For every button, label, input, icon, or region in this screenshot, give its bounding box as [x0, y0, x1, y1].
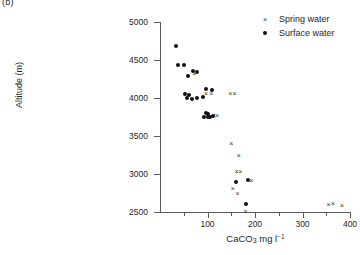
data-point-spring-water: ×	[228, 140, 235, 147]
y-tick-label-3000: 3000	[108, 169, 148, 179]
x-axis-label-superscript: −1	[277, 233, 284, 240]
data-point-spring-water: ×	[242, 208, 249, 215]
data-point-spring-water: ×	[338, 202, 345, 209]
y-tick-label-4000: 4000	[108, 93, 148, 103]
x-tick-400	[350, 213, 351, 218]
x-axis-label: CaCO3 mg l−1	[160, 233, 351, 244]
data-point-surface-water	[234, 180, 238, 184]
figure-panel-b: (b) 250030003500400045005000 10020030040…	[0, 0, 360, 255]
data-point-spring-water: ×	[329, 200, 336, 207]
legend-item-surface-water[interactable]: Surface water	[258, 26, 335, 40]
legend-label: Surface water	[272, 28, 335, 38]
x-tick-minor-50	[184, 213, 185, 216]
filled-circle-icon	[258, 31, 272, 35]
x-tick-minor-150	[231, 213, 232, 216]
cross-icon: ×	[258, 16, 272, 23]
chart-legend: ×Spring waterSurface water	[258, 12, 335, 40]
y-tick-label-4500: 4500	[108, 55, 148, 65]
data-point-spring-water: ×	[235, 152, 242, 159]
panel-label: (b)	[2, 0, 14, 7]
y-tick-label-2500: 2500	[108, 207, 148, 217]
x-axis-label-caco: CaCO	[226, 233, 252, 244]
data-point-spring-water: ×	[234, 190, 241, 197]
y-tick-2500	[154, 212, 160, 213]
data-point-spring-water: ×	[231, 90, 238, 97]
data-point-surface-water	[195, 70, 199, 74]
x-tick-200	[255, 213, 256, 218]
legend-label: Spring water	[272, 14, 330, 24]
x-tick-label-300: 300	[283, 219, 323, 229]
y-axis-label: Altitude (m)	[14, 35, 24, 135]
data-point-surface-water	[210, 88, 214, 92]
data-point-surface-water	[176, 63, 180, 67]
data-point-surface-water	[201, 95, 205, 99]
x-tick-minor-250	[279, 213, 280, 216]
x-axis-label-formula: CaCO3 mg l−1	[226, 233, 284, 244]
y-tick-label-5000: 5000	[108, 17, 148, 27]
x-tick-300	[303, 213, 304, 218]
data-point-surface-water	[244, 202, 248, 206]
x-tick-100	[208, 213, 209, 218]
x-tick-label-200: 200	[235, 219, 275, 229]
legend-item-spring-water[interactable]: ×Spring water	[258, 12, 335, 26]
plot-area	[160, 22, 350, 212]
x-axis-label-units: mg l	[257, 233, 278, 244]
x-tick-label-100: 100	[188, 219, 228, 229]
x-tick-label-400: 400	[330, 219, 360, 229]
y-tick-label-3500: 3500	[108, 131, 148, 141]
data-point-spring-water: ×	[237, 168, 244, 175]
x-tick-minor-350	[326, 213, 327, 216]
